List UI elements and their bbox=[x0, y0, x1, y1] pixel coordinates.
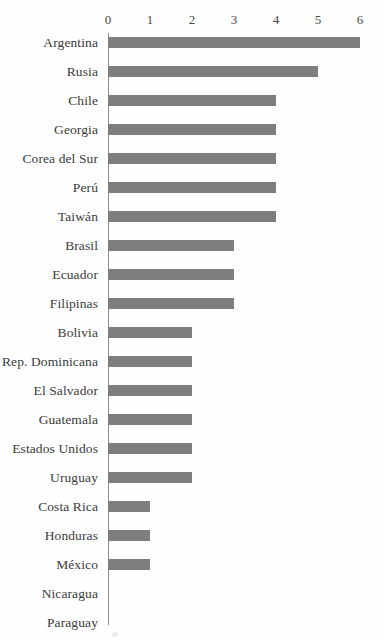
bar-row: Uruguay bbox=[0, 469, 384, 498]
bar bbox=[108, 443, 192, 454]
bar-track bbox=[108, 298, 376, 309]
bar bbox=[108, 182, 276, 193]
plot-area: 0123456 ArgentinaRusiaChileGeorgiaCorea … bbox=[0, 0, 384, 640]
category-label-georgia: Georgia bbox=[54, 121, 98, 151]
bar-row: Honduras bbox=[0, 527, 384, 556]
bar-track bbox=[108, 617, 376, 628]
bar-row: El Salvador bbox=[0, 382, 384, 411]
bar-row: Rep. Dominicana bbox=[0, 353, 384, 382]
x-tick-label-6: 6 bbox=[348, 12, 372, 28]
bar-track bbox=[108, 66, 376, 77]
scan-artifact bbox=[112, 632, 118, 637]
bar bbox=[108, 298, 234, 309]
bar-row: Ecuador bbox=[0, 266, 384, 295]
bar-row: Taiwán bbox=[0, 208, 384, 237]
category-label-argentina: Argentina bbox=[43, 34, 98, 64]
x-tick-label-4: 4 bbox=[264, 12, 288, 28]
category-label-uruguay: Uruguay bbox=[50, 469, 98, 499]
bar-track bbox=[108, 588, 376, 599]
bar-row: Chile bbox=[0, 92, 384, 121]
category-label-per: Perú bbox=[73, 179, 98, 209]
category-label-corea-del-sur: Corea del Sur bbox=[22, 150, 98, 180]
category-label-el-salvador: El Salvador bbox=[34, 382, 98, 412]
bar-track bbox=[108, 501, 376, 512]
bar-row: Georgia bbox=[0, 121, 384, 150]
category-label-honduras: Honduras bbox=[45, 527, 98, 557]
bar-track bbox=[108, 240, 376, 251]
x-tick-label-2: 2 bbox=[180, 12, 204, 28]
bar-row: Perú bbox=[0, 179, 384, 208]
bar bbox=[108, 559, 150, 570]
bar-row: Costa Rica bbox=[0, 498, 384, 527]
bar-track bbox=[108, 472, 376, 483]
x-tick-label-0: 0 bbox=[96, 12, 120, 28]
bar-track bbox=[108, 95, 376, 106]
bar bbox=[108, 37, 360, 48]
category-label-filipinas: Filipinas bbox=[50, 295, 98, 325]
bar-track bbox=[108, 124, 376, 135]
bar bbox=[108, 240, 234, 251]
bar bbox=[108, 472, 192, 483]
category-label-costa-rica: Costa Rica bbox=[38, 498, 98, 528]
bar-row: Bolivia bbox=[0, 324, 384, 353]
bar-track bbox=[108, 327, 376, 338]
category-label-guatemala: Guatemala bbox=[39, 411, 98, 441]
bar bbox=[108, 211, 276, 222]
bar bbox=[108, 269, 234, 280]
bar bbox=[108, 385, 192, 396]
bar-rows: ArgentinaRusiaChileGeorgiaCorea del SurP… bbox=[0, 34, 384, 640]
bar-track bbox=[108, 269, 376, 280]
bar-track bbox=[108, 559, 376, 570]
category-label-bolivia: Bolivia bbox=[58, 324, 98, 354]
bar-track bbox=[108, 211, 376, 222]
bar-track bbox=[108, 385, 376, 396]
bar-row: Filipinas bbox=[0, 295, 384, 324]
bar bbox=[108, 530, 150, 541]
bar bbox=[108, 95, 276, 106]
x-tick-label-5: 5 bbox=[306, 12, 330, 28]
category-label-chile: Chile bbox=[68, 92, 98, 122]
bar-row: Brasil bbox=[0, 237, 384, 266]
bar-track bbox=[108, 153, 376, 164]
category-label-ecuador: Ecuador bbox=[52, 266, 98, 296]
category-label-rusia: Rusia bbox=[67, 63, 98, 93]
bar-row: Paraguay bbox=[0, 614, 384, 640]
bar bbox=[108, 356, 192, 367]
bar-row: Nicaragua bbox=[0, 585, 384, 614]
category-label-paraguay: Paraguay bbox=[47, 614, 98, 640]
x-tick-label-1: 1 bbox=[138, 12, 162, 28]
bar-row: Corea del Sur bbox=[0, 150, 384, 179]
bar-row: México bbox=[0, 556, 384, 585]
bar bbox=[108, 414, 192, 425]
category-label-taiw-n: Taiwán bbox=[58, 208, 98, 238]
category-label-nicaragua: Nicaragua bbox=[42, 585, 98, 615]
x-tick-label-3: 3 bbox=[222, 12, 246, 28]
bar bbox=[108, 124, 276, 135]
bar-row: Argentina bbox=[0, 34, 384, 63]
bar-row: Guatemala bbox=[0, 411, 384, 440]
category-label-m-xico: México bbox=[56, 556, 98, 586]
bar-chart: 0123456 ArgentinaRusiaChileGeorgiaCorea … bbox=[0, 0, 384, 640]
bar bbox=[108, 153, 276, 164]
bar-row: Rusia bbox=[0, 63, 384, 92]
category-label-brasil: Brasil bbox=[65, 237, 98, 267]
bar bbox=[108, 501, 150, 512]
bar-track bbox=[108, 182, 376, 193]
bar bbox=[108, 66, 318, 77]
category-label-rep-dominicana: Rep. Dominicana bbox=[2, 353, 98, 383]
bar-track bbox=[108, 37, 376, 48]
category-label-estados-unidos: Estados Unidos bbox=[12, 440, 98, 470]
x-axis-tick-labels: 0123456 bbox=[0, 12, 384, 32]
bar bbox=[108, 327, 192, 338]
bar-track bbox=[108, 414, 376, 425]
bar-track bbox=[108, 356, 376, 367]
bar-track bbox=[108, 530, 376, 541]
bar-row: Estados Unidos bbox=[0, 440, 384, 469]
bar-track bbox=[108, 443, 376, 454]
